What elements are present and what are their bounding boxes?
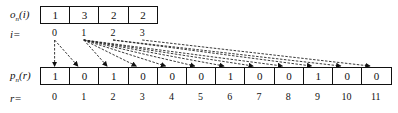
mapping-arrow: [113, 40, 311, 66]
mapping-arrow: [142, 40, 370, 66]
bottom-cell: 0: [274, 67, 305, 85]
bottom-cell: 1: [303, 67, 334, 85]
top-index: 2: [103, 27, 123, 38]
top-index-label: i=: [10, 28, 20, 40]
bottom-cell: 1: [98, 67, 129, 85]
mapping-arrow: [84, 40, 166, 66]
bottom-row-label: pn(r): [10, 69, 31, 84]
mapping-arrow: [84, 40, 282, 66]
bottom-index: 2: [103, 91, 123, 102]
bottom-index-label: r=: [10, 92, 22, 104]
top-index: 3: [132, 27, 152, 38]
bottom-cell: 0: [186, 67, 217, 85]
mapping-arrow: [55, 40, 78, 66]
bottom-cell: 1: [40, 67, 71, 85]
top-index: 1: [74, 27, 94, 38]
bottom-cell: 0: [332, 67, 363, 85]
bottom-index: 3: [132, 91, 152, 102]
bottom-cell: 0: [361, 67, 392, 85]
bottom-index: 7: [249, 91, 269, 102]
bottom-index: 0: [45, 91, 65, 102]
top-cell: 1: [40, 6, 71, 24]
bottom-cell: 0: [128, 67, 159, 85]
bottom-index: 4: [161, 91, 181, 102]
top-index: 0: [45, 27, 65, 38]
bottom-cell: 1: [215, 67, 246, 85]
diagram: on(i) i= pn(r) r= 1031222310011203040516…: [0, 0, 398, 113]
bottom-index: 9: [307, 91, 327, 102]
bottom-index: 5: [191, 91, 211, 102]
bottom-cell: 0: [157, 67, 188, 85]
bottom-index: 1: [74, 91, 94, 102]
bottom-index: 11: [366, 91, 386, 102]
top-cell: 3: [69, 6, 100, 24]
bottom-index: 10: [337, 91, 357, 102]
bottom-cell: 0: [244, 67, 275, 85]
bottom-index: 8: [278, 91, 298, 102]
bottom-index: 6: [220, 91, 240, 102]
top-cell: 2: [98, 6, 129, 24]
bottom-cell: 0: [69, 67, 100, 85]
top-row-label: on(i): [10, 8, 29, 23]
mapping-arrow: [84, 40, 195, 66]
top-cell: 2: [128, 6, 159, 24]
